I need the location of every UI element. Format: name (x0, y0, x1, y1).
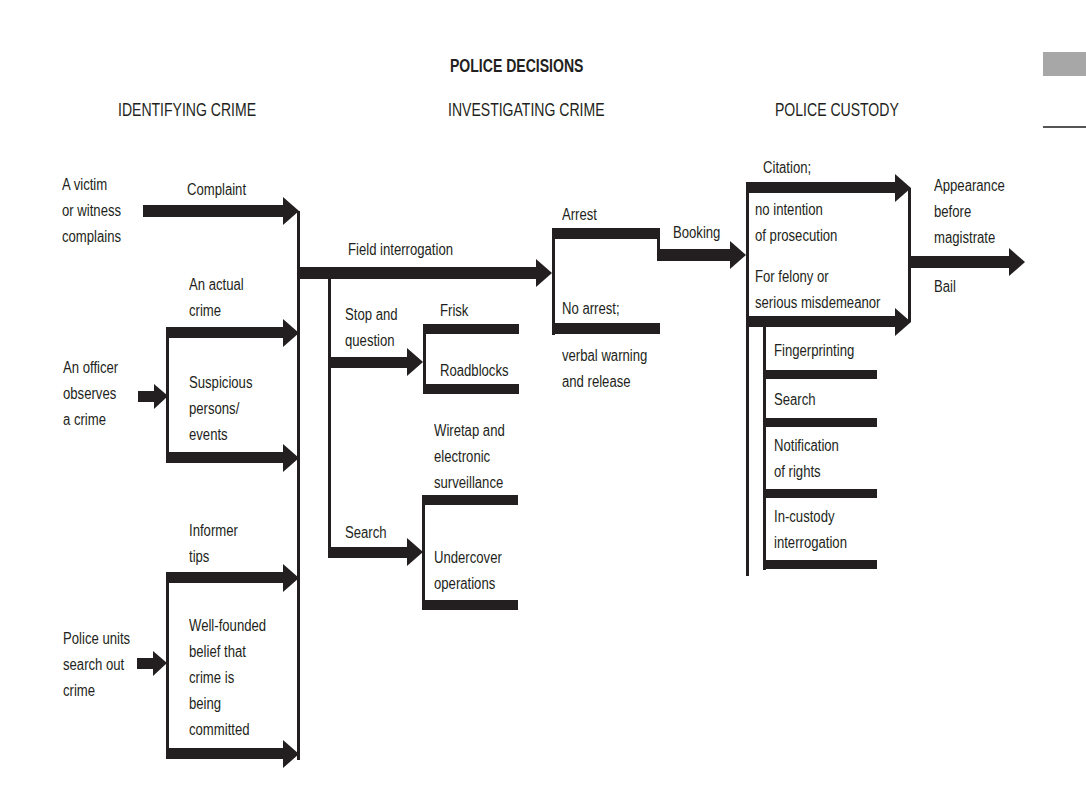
label-no-arrest: No arrest; (562, 296, 620, 322)
label-actual-crime: An actual crime (189, 272, 244, 324)
police-decisions-diagram: POLICE DECISIONS IDENTIFYING CRIME INVES… (0, 0, 1086, 808)
booking-procedures-line (763, 326, 766, 570)
bar-no-arrest (552, 323, 660, 334)
label-arrest: Arrest (562, 202, 597, 228)
collector-line-identifying (297, 211, 300, 760)
bracket-search (422, 497, 425, 607)
label-notification-rights: Notification of rights (774, 433, 839, 485)
bar-frisk (423, 324, 519, 334)
label-officer-observes: An officer observes a crime (63, 355, 118, 433)
label-appearance-magistrate: Appearance before magistrate (934, 173, 1005, 251)
label-citation: Citation; (763, 155, 811, 181)
bar-in-custody (763, 560, 877, 569)
bar-fingerprinting (763, 370, 877, 379)
bracket-officer (166, 333, 169, 460)
label-well-founded-belief: Well-founded belief that crime is being … (189, 613, 266, 743)
label-complaint: Complaint (187, 177, 246, 203)
label-no-intention: no intention of prosecution (755, 197, 837, 249)
bracket-arrest (552, 231, 555, 335)
bar-undercover (422, 600, 518, 610)
label-booking: Booking (673, 220, 720, 246)
label-roadblocks: Roadblocks (440, 358, 509, 384)
bar-arrest (552, 228, 660, 239)
label-in-custody-interrogation: In-custody interrogation (774, 504, 847, 556)
arrow-police-units (137, 651, 167, 676)
label-fingerprinting: Fingerprinting (774, 338, 854, 364)
bar-wiretap (422, 495, 518, 505)
bar-search-custody (763, 418, 877, 427)
label-field-interrogation: Field interrogation (348, 237, 453, 263)
label-wiretap: Wiretap and electronic surveillance (434, 418, 505, 496)
bar-notification (763, 489, 877, 498)
bracket-police-units (166, 577, 169, 754)
label-verbal-warning: verbal warning and release (562, 343, 647, 395)
investigation-branch-line (328, 275, 331, 555)
bar-roadblocks (423, 384, 519, 394)
arrow-well-founded (166, 740, 299, 768)
bracket-stop-question (423, 327, 426, 389)
label-suspicious-persons: Suspicious persons/ events (189, 370, 252, 448)
label-search-investigate: Search (345, 520, 387, 546)
arrow-appearance-bail (909, 248, 1025, 276)
label-informer-tips: Informer tips (189, 518, 238, 570)
arrow-officer (138, 384, 168, 409)
custody-collector-line (908, 188, 911, 322)
label-frisk: Frisk (440, 298, 468, 324)
label-undercover: Undercover operations (434, 545, 502, 597)
label-bail: Bail (934, 274, 956, 300)
custody-main-line (746, 183, 749, 576)
label-felony: For felony or serious misdemeanor (755, 264, 880, 316)
label-police-units: Police units search out crime (63, 626, 130, 704)
label-victim-complains: A victim or witness complains (62, 172, 121, 250)
label-stop-and-question: Stop and question (345, 302, 398, 354)
label-search-custody: Search (774, 387, 816, 413)
arrow-suspicious-events (166, 444, 299, 472)
flow-arrows (0, 0, 1086, 808)
arrow-field-interrogation (298, 259, 552, 287)
